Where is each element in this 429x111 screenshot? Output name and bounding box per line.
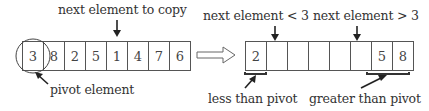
arrow-down-less-icon	[271, 26, 279, 41]
less-bracket-icon	[245, 72, 266, 74]
greater-bracket-icon	[367, 72, 409, 74]
arrow-down-greater-icon	[353, 26, 361, 41]
arrow-down-icon	[113, 20, 121, 37]
arrow-greater-icon	[361, 75, 387, 88]
hollow-right-arrow-icon	[197, 47, 235, 63]
arrow-pivot-icon	[35, 72, 48, 84]
arrow-less-icon	[245, 75, 256, 88]
diagram-overlay	[0, 0, 429, 111]
pivot-circle-icon	[16, 39, 50, 73]
